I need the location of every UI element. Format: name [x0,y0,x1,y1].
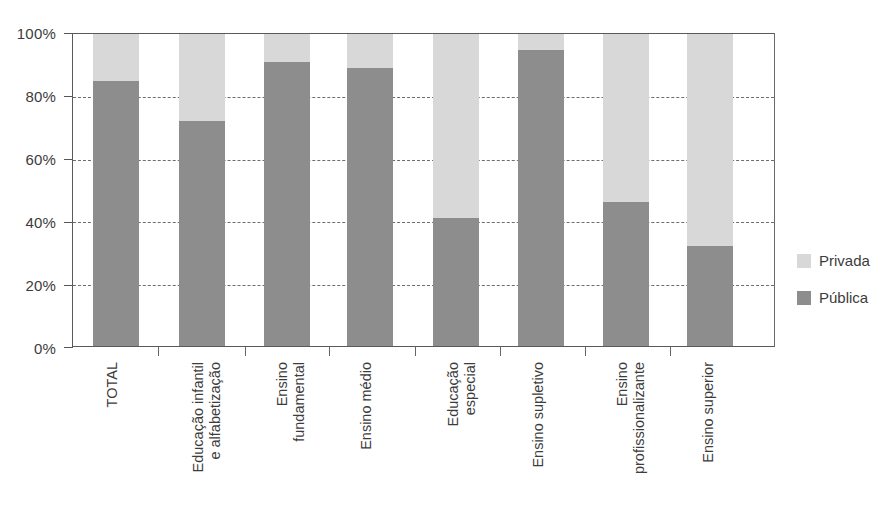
bar-segment-privada [687,34,733,246]
x-axis-label-ensino-fundamental: Ensino fundamental [274,362,308,512]
y-tick-label-80: 80% [25,88,56,105]
plot-area [72,33,775,347]
stacked-bar-chart: 100% 80% 60% 40% 20% 0% [0,0,893,522]
x-axis-label-ensino-profissionalizante: Ensino profissionalizante [614,362,648,512]
bar-segment-publica [264,62,310,346]
legend-item-privada: Privada [797,252,893,269]
bar-segment-privada [93,34,139,81]
bar-segment-privada [347,34,393,68]
x-tick-7 [670,347,671,356]
bar-ensino-supletivo [518,34,564,346]
y-tick-mark-0 [64,347,73,348]
bar-educacao-especial [433,34,479,346]
bar-segment-privada [518,34,564,50]
bar-total [93,34,139,346]
bar-ensino-superior [687,34,733,346]
bar-segment-publica [603,202,649,346]
bar-ensino-fundamental [264,34,310,346]
y-tick-label-20: 20% [25,277,56,294]
x-axis-label-educacao-infantil-e-alfabetizacao: Educação infantil e alfabetização [190,362,224,512]
y-axis-labels: 100% 80% 60% 40% 20% 0% [0,0,66,522]
x-tick-5 [500,347,501,356]
y-tick-label-0: 0% [34,340,56,357]
bar-segment-privada [264,34,310,62]
bar-educacao-infantil-e-alfabetizacao [179,34,225,346]
x-tick-1 [158,347,159,356]
x-axis-label-ensino-supletivo: Ensino supletivo [530,362,547,512]
legend-swatch-publica-icon [797,291,811,305]
x-tick-2 [245,347,246,356]
x-tick-4 [415,347,416,356]
bar-segment-publica [93,81,139,346]
y-tick-label-60: 60% [25,151,56,168]
bar-segment-privada [179,34,225,121]
bar-segment-publica [179,121,225,346]
bar-segment-publica [433,218,479,346]
bar-segment-publica [347,68,393,346]
x-axis-label-ensino-superior: Ensino superior [700,362,717,512]
y-tick-label-40: 40% [25,214,56,231]
x-tick-3 [329,347,330,356]
legend: Privada Pública [797,252,893,326]
x-axis-label-ensino-medio: Ensino médio [358,362,375,512]
bar-segment-publica [687,246,733,346]
x-axis-label-total: TOTAL [104,362,121,512]
bar-ensino-medio [347,34,393,346]
bar-segment-privada [433,34,479,218]
x-tick-6 [585,347,586,356]
bar-segment-publica [518,50,564,346]
x-axis-label-educacao-especial: Educação especial [445,362,479,512]
legend-label-publica: Pública [819,289,868,306]
bar-ensino-profissionalizante [603,34,649,346]
bar-segment-privada [603,34,649,202]
legend-item-publica: Pública [797,289,893,306]
legend-swatch-privada-icon [797,254,811,268]
legend-label-privada: Privada [819,252,870,269]
y-tick-label-100: 100% [17,25,56,42]
